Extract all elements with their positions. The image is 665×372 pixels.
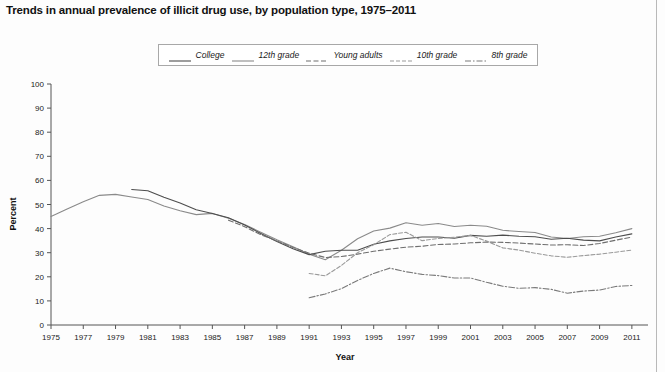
x-axis-tick-label: 1981	[139, 333, 157, 342]
y-axis-tick-label: 10	[35, 297, 44, 306]
x-axis-tick-label: 1985	[203, 333, 221, 342]
y-axis-tick-label: 60	[35, 176, 44, 185]
chart-figure: Trends in annual prevalence of illicit d…	[0, 0, 665, 372]
y-axis-tick-label: 0	[40, 321, 45, 330]
x-axis-tick-label: 1983	[171, 333, 189, 342]
x-axis-tick-label: 2003	[494, 333, 512, 342]
page-edge-rule	[656, 0, 657, 372]
x-axis-tick-label: 1991	[300, 333, 318, 342]
series-line-college	[132, 190, 632, 255]
y-axis-tick-label: 20	[35, 273, 44, 282]
y-axis: 0102030405060708090100	[31, 80, 51, 330]
y-axis-tick-label: 30	[35, 249, 44, 258]
x-axis-tick-label: 1975	[42, 333, 60, 342]
x-axis-tick-label: 1997	[397, 333, 415, 342]
y-axis-tick-label: 50	[35, 201, 44, 210]
x-axis: 1975197719791981198319851987198919911993…	[42, 325, 648, 342]
y-axis-title: Percent	[8, 197, 18, 230]
x-axis-tick-label: 2001	[462, 333, 480, 342]
data-series-group	[51, 190, 632, 298]
y-axis-tick-label: 90	[35, 104, 44, 113]
x-axis-tick-label: 2009	[591, 333, 609, 342]
x-axis-tick-label: 1977	[74, 333, 92, 342]
x-axis-tick-label: 1989	[268, 333, 286, 342]
x-axis-tick-label: 2005	[526, 333, 544, 342]
y-axis-tick-label: 70	[35, 152, 44, 161]
x-axis-tick-label: 1993	[333, 333, 351, 342]
x-axis-tick-label: 1999	[429, 333, 447, 342]
y-axis-tick-label: 40	[35, 225, 44, 234]
series-line-8th-grade	[309, 268, 632, 298]
x-axis-tick-label: 2007	[558, 333, 576, 342]
x-axis-tick-label: 1979	[107, 333, 125, 342]
y-axis-tick-label: 100	[31, 80, 45, 89]
x-axis-tick-label: 1995	[365, 333, 383, 342]
x-axis-tick-label: 1987	[236, 333, 254, 342]
chart-plot-area: 0102030405060708090100 19751977197919811…	[0, 0, 665, 372]
y-axis-tick-label: 80	[35, 128, 44, 137]
x-axis-title: Year	[335, 352, 355, 362]
x-axis-tick-label: 2011	[623, 333, 641, 342]
